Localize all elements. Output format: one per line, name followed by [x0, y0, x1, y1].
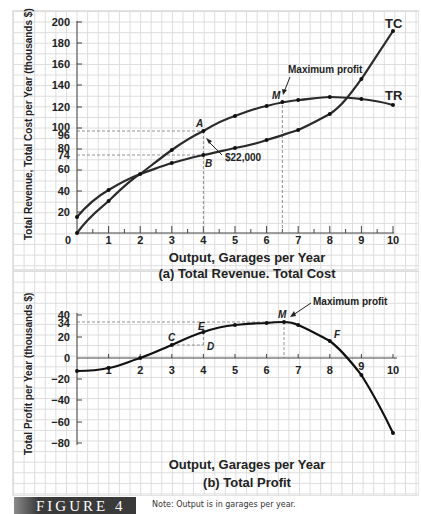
tc-label: TC: [385, 16, 403, 31]
x-tick-label: 2: [137, 234, 143, 246]
point-m-label-a: M: [272, 90, 281, 101]
panel-b-ylabel: Total Profit per Year (thousands $): [23, 293, 34, 455]
profit-curve: [77, 322, 393, 433]
panel-a-guides: [77, 100, 282, 233]
x-tick-label: 7: [295, 364, 301, 376]
panel-a-y-tick-labels: 200 180 160 140 120 100 96 80 74 60 40 2…: [52, 16, 71, 218]
panel-a-x-tick-labels: 0 1 2 3 4 5 6 7 8 9 10: [65, 234, 399, 246]
x-tick-label: 7: [295, 234, 301, 246]
x-tick-label: 9: [358, 234, 364, 246]
arrow-head: [290, 311, 296, 317]
max-profit-label-b: Maximum profit: [313, 296, 388, 307]
x-tick-label: 5: [232, 234, 238, 246]
panel-a-title: (a) Total Revenue. Total Cost: [158, 266, 336, 281]
point-d-label: D: [207, 341, 214, 352]
panel-b-points: [75, 320, 395, 435]
gap-label: $22,000: [225, 152, 262, 163]
x-tick-label: 8: [327, 234, 333, 246]
x-tick-label: 3: [169, 234, 175, 246]
y-tick-label: −80: [51, 437, 70, 449]
panel-a-chart: Total Revenue, Total Cost per Year (thou…: [23, 8, 403, 281]
panel-b-y-ticks: [77, 315, 82, 443]
x-tick-label: 5: [232, 364, 238, 376]
y-tick-label: 20: [58, 206, 70, 218]
y-tick-label: 40: [58, 185, 70, 197]
panel-b-xlabel: Output, Garages per Year: [169, 457, 326, 472]
point-a-label: A: [195, 118, 203, 129]
y-tick-label: 20: [58, 331, 70, 343]
panel-b-chart: Total Profit per Year (thousands $) 40 3…: [23, 293, 399, 490]
y-tick-label: 60: [58, 163, 70, 175]
figure-note: Note: Output is in garages per year.: [152, 500, 296, 509]
x-tick-label: 9: [358, 360, 364, 372]
y-tick-label: 160: [52, 58, 70, 70]
panel-a-points: [75, 29, 395, 235]
x-tick-label: 2: [137, 364, 143, 376]
arrow-head: [282, 89, 287, 95]
y-tick-label: −40: [51, 394, 70, 406]
x-tick-label: 6: [264, 234, 270, 246]
y-tick-label: −20: [51, 373, 70, 385]
x-tick-label: 1: [106, 234, 112, 246]
point-b-label: B: [205, 158, 212, 169]
y-tick-label: 74: [58, 149, 71, 161]
point-c-label: C: [168, 332, 176, 343]
y-tick-label: 180: [52, 37, 70, 49]
max-profit-arrow-b: [293, 303, 311, 315]
panel-a-y-ticks: [77, 22, 82, 212]
x-tick-label: 4: [200, 364, 207, 376]
y-tick-label: 0: [64, 352, 70, 364]
y-tick-label: −60: [51, 416, 70, 428]
max-profit-label-a: Maximum profit: [288, 64, 363, 75]
point-f-label: F: [334, 329, 341, 340]
tc-curve: [77, 31, 393, 217]
y-tick-label: 34: [58, 317, 71, 329]
y-tick-label: 140: [52, 79, 70, 91]
arrow-head: [206, 138, 212, 144]
figure-badge: FIGURE 4: [14, 497, 136, 514]
x-tick-label: 3: [169, 364, 175, 376]
x-tick-label: 0: [65, 234, 71, 246]
tr-label: TR: [385, 88, 403, 103]
x-tick-label: 10: [387, 364, 399, 376]
x-tick-label: 8: [327, 364, 333, 376]
x-tick-label: 4: [200, 234, 207, 246]
figure-canvas: Total Revenue, Total Cost per Year (thou…: [0, 0, 421, 514]
x-tick-label: 10: [387, 234, 399, 246]
panel-a-xlabel: Output, Garages per Year: [169, 250, 326, 265]
y-tick-label: 200: [52, 16, 70, 28]
y-tick-label: 96: [58, 129, 70, 141]
panel-a-ylabel: Total Revenue, Total Cost per Year (thou…: [23, 8, 34, 240]
panel-a-x-ticks: [93, 226, 393, 233]
point-m-label-b: M: [278, 309, 287, 320]
panel-b-y-tick-labels: 40 34 20 0 −20 −40 −60 −80: [51, 309, 71, 449]
x-tick-label: 6: [264, 364, 270, 376]
point-e-label: E: [198, 321, 205, 332]
y-tick-label: 120: [52, 101, 70, 113]
panel-b-title: (b) Total Profit: [203, 475, 292, 490]
